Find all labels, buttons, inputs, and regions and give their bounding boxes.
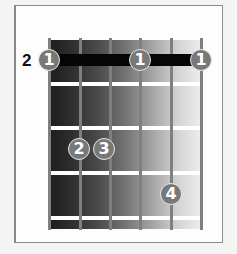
barre-bar: [52, 54, 198, 66]
finger-marker: 1: [38, 49, 60, 71]
finger-marker: 2: [68, 138, 90, 160]
finger-marker: 4: [160, 183, 182, 205]
fret-line-2: [48, 126, 203, 130]
fret-line-4: [48, 216, 203, 220]
finger-marker: 1: [190, 49, 212, 71]
finger-marker: 1: [129, 49, 151, 71]
starting-fret-label: 2: [22, 51, 31, 71]
fret-line-3: [48, 171, 203, 175]
string-3: [109, 38, 112, 230]
finger-marker: 3: [93, 138, 115, 160]
fret-line-1: [48, 82, 203, 86]
string-2: [79, 38, 82, 230]
